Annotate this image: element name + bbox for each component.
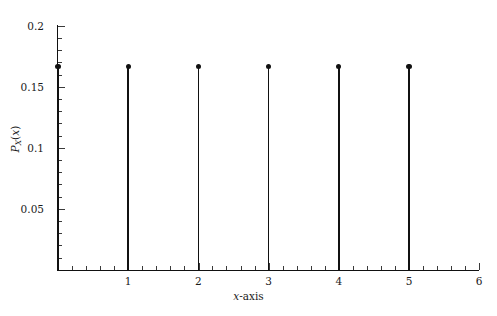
y-axis-title-paren-close: ) <box>9 126 21 130</box>
y-tick-label-0.2: 0.2 <box>0 21 44 32</box>
stem-line <box>408 66 410 269</box>
y-axis-title-arg: x <box>9 130 21 136</box>
x-tick-minor <box>311 266 312 270</box>
x-tick-minor <box>72 266 73 270</box>
x-tick-label-5: 5 <box>394 276 424 287</box>
x-tick-minor <box>437 266 438 270</box>
x-tick-minor <box>100 266 101 270</box>
x-tick-minor <box>423 266 424 270</box>
y-tick-major-0.15 <box>58 87 65 88</box>
y-tick-minor <box>58 50 62 51</box>
x-tick-minor <box>184 266 185 270</box>
plot-area: 0.2 0.15 0.1 0.05 <box>0 0 497 316</box>
data-point-marker <box>55 64 60 69</box>
x-tick-label-1: 1 <box>113 276 143 287</box>
data-point-marker <box>196 64 201 69</box>
x-tick-minor <box>156 266 157 270</box>
stem-line <box>338 66 340 269</box>
x-tick-minor <box>325 266 326 270</box>
stem-line <box>198 66 200 269</box>
x-tick-minor <box>395 266 396 270</box>
y-tick-major-0.05 <box>58 209 65 210</box>
data-point-marker <box>266 64 271 69</box>
y-tick-major-0.2 <box>58 26 65 27</box>
x-tick-minor <box>381 266 382 270</box>
x-tick-minor <box>86 266 87 270</box>
data-point-marker <box>336 64 341 69</box>
x-tick-minor <box>367 266 368 270</box>
x-tick-label-3: 3 <box>254 276 284 287</box>
y-tick-label-0.15: 0.15 <box>0 82 44 93</box>
x-tick-minor <box>283 266 284 270</box>
x-tick-major-6 <box>479 263 480 270</box>
y-axis-title-base: P <box>9 145 21 152</box>
x-tick-minor <box>212 266 213 270</box>
x-tick-minor <box>226 266 227 270</box>
y-tick-minor <box>58 38 62 39</box>
x-tick-label-2: 2 <box>183 276 213 287</box>
data-point-marker <box>126 64 131 69</box>
x-tick-minor <box>170 266 171 270</box>
x-tick-minor <box>114 266 115 270</box>
y-axis-title-subscript: X <box>14 140 23 145</box>
x-tick-minor <box>241 266 242 270</box>
y-tick-major-0.1 <box>58 148 65 149</box>
x-axis-title-rest: -axis <box>239 290 263 302</box>
x-tick-label-4: 4 <box>324 276 354 287</box>
y-axis-title-paren-open: ( <box>9 136 21 140</box>
stem-line <box>57 66 59 269</box>
stem-line <box>127 66 129 269</box>
x-tick-minor <box>142 266 143 270</box>
chart-figure: 0.2 0.15 0.1 0.05 <box>0 0 497 316</box>
y-axis-title: PX(x) <box>9 109 23 169</box>
x-tick-minor <box>297 266 298 270</box>
x-tick-minor <box>353 266 354 270</box>
y-tick-label-0.05: 0.05 <box>0 204 44 215</box>
x-tick-label-6: 6 <box>464 276 494 287</box>
data-point-marker <box>406 64 411 69</box>
stem-line <box>268 66 270 269</box>
x-tick-minor <box>465 266 466 270</box>
x-axis-title: x-axis <box>0 290 497 302</box>
x-tick-minor <box>451 266 452 270</box>
x-tick-minor <box>255 266 256 270</box>
